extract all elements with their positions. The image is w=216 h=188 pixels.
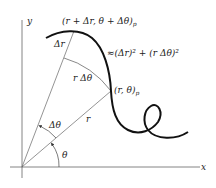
radius-line-upper [22,31,74,167]
radius-label: r [86,114,91,124]
point-lower-label: (r, θ)p [114,85,139,97]
delta-theta-label: Δθ [48,120,61,130]
theta-label: θ [62,150,68,160]
polar-diagram: x y (r + Δr, θ + Δθ)p Δr ≈(Δr)² + (r Δθ)… [0,0,216,188]
delta-r-label: Δr [53,39,65,49]
r-delta-theta-label: r Δθ [73,73,93,83]
point-upper-label: (r + Δr, θ + Δθ)p [62,16,137,28]
x-axis-label: x [201,162,206,172]
arc-length-label: ≈(Δr)² + (r Δθ)² [107,48,179,58]
y-axis-label: y [26,16,33,26]
theta-angle-arc [52,144,59,167]
